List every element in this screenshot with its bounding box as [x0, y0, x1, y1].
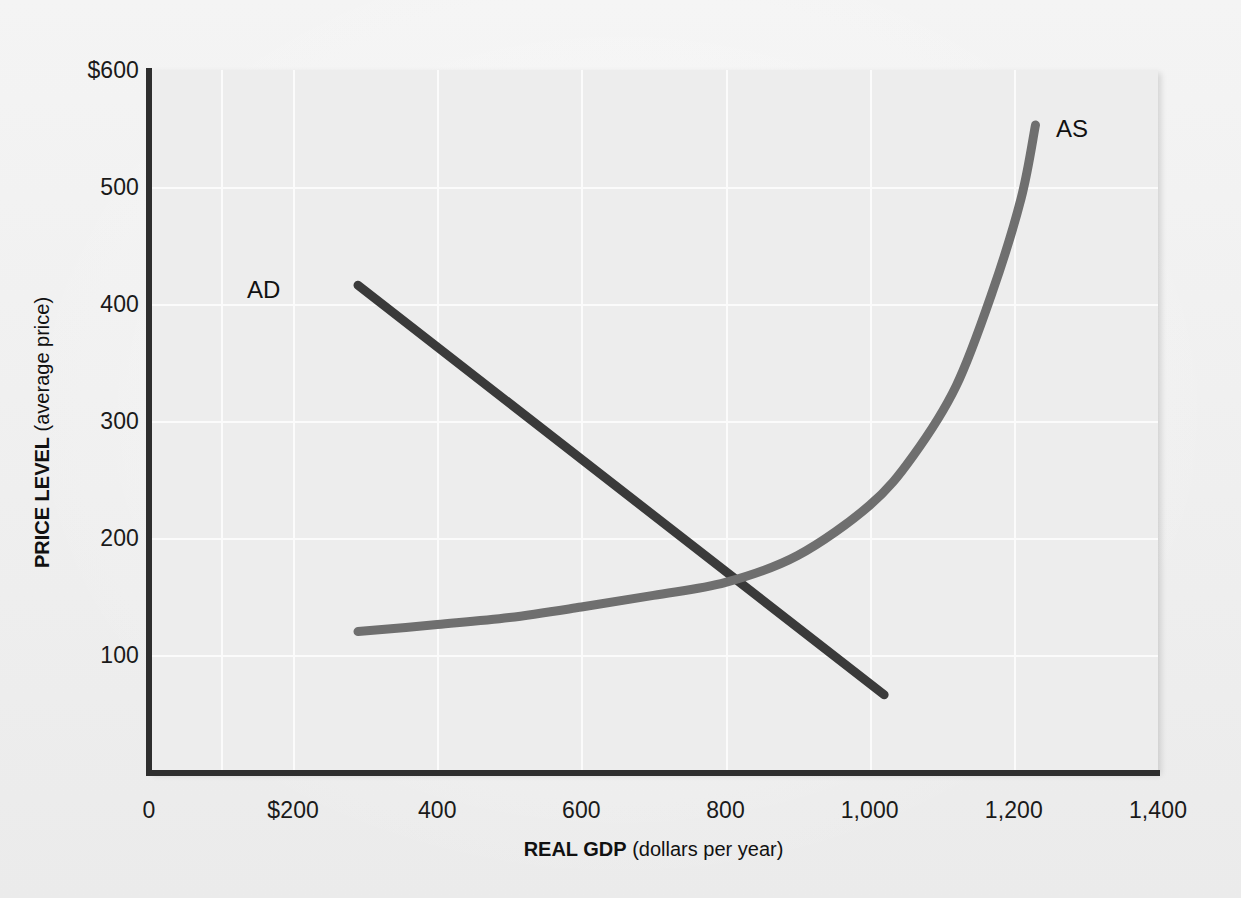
chart-page: $600500400300200100 0$2004006008001,0001…: [0, 0, 1241, 898]
curve-as: [358, 125, 1035, 632]
curve-label-ad: AD: [247, 276, 280, 304]
curves-svg: [0, 0, 1241, 898]
curve-label-as: AS: [1056, 115, 1088, 143]
curve-ad: [358, 285, 884, 695]
aggregate-supply-demand-chart: $600500400300200100 0$2004006008001,0001…: [0, 0, 1241, 898]
